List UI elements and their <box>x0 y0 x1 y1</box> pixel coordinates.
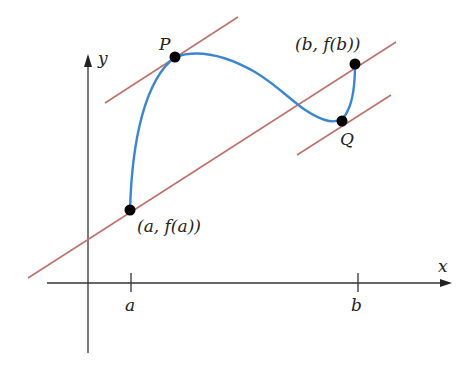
point-b <box>350 59 361 70</box>
tick-b-label: b <box>351 295 362 315</box>
axes <box>47 54 452 353</box>
point-P-label: P <box>158 34 171 54</box>
x-axis-arrow-icon <box>440 279 452 287</box>
tick-a-label: a <box>125 295 135 315</box>
point-Q <box>337 116 348 127</box>
point-a <box>125 205 136 216</box>
y-axis-label: y <box>97 48 108 68</box>
secant-line <box>28 42 396 278</box>
point-Q-label: Q <box>340 129 354 149</box>
function-curve <box>130 53 355 210</box>
y-axis-arrow-icon <box>84 54 92 67</box>
point-b-label: (b, f(b)) <box>295 34 360 54</box>
diagram-canvas: y x a b P Q (a, f(a)) (b, f(b)) <box>0 0 474 374</box>
x-axis-label: x <box>438 256 448 276</box>
point-a-label: (a, f(a)) <box>137 216 201 236</box>
points <box>125 52 361 216</box>
mvt-diagram: y x a b P Q (a, f(a)) (b, f(b)) <box>0 0 474 374</box>
point-P <box>170 52 181 63</box>
